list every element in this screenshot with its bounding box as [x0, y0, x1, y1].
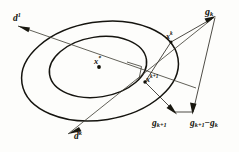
label-direction-dk: dk: [74, 130, 82, 142]
label-direction-d1-sup: 1: [18, 11, 21, 18]
direction-line-dk: [68, 19, 212, 134]
figure-container: d1 dk x* xk xk+1 gk gk+1 gk+1−gk: [0, 0, 239, 152]
label-gradient-k-sub: k: [210, 10, 213, 17]
label-iterate-k1-sup: k+1: [150, 73, 158, 79]
outer-level-set-ellipse: [14, 10, 185, 132]
label-direction-d1: d1: [13, 12, 21, 24]
label-iterate-k1: xk+1: [146, 74, 158, 84]
label-direction-dk-sup: k: [79, 129, 82, 136]
label-optimum: x*: [94, 56, 101, 65]
point-iterate-k: [170, 41, 173, 44]
label-gradient-k: gk: [205, 7, 213, 18]
label-iterate-k: xk: [166, 31, 173, 41]
label-gradient-difference-sub1: k+1: [195, 121, 205, 128]
label-iterate-k-sup: k: [170, 30, 173, 36]
label-optimum-sup: *: [98, 55, 101, 61]
label-gradient-k1-sub: k+1: [157, 121, 167, 128]
label-gradient-k1: gk+1: [152, 119, 167, 129]
label-gradient-difference-sub2: k: [215, 121, 218, 128]
diagram-canvas: [0, 0, 239, 152]
label-gradient-difference: gk+1−gk: [190, 119, 218, 129]
arrowhead-gk1-minus-gk: [190, 103, 197, 115]
arrowhead-d1: [18, 26, 30, 32]
